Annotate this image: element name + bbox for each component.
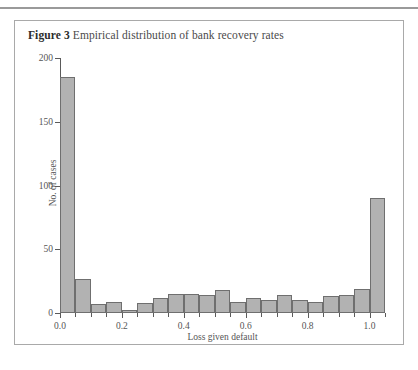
histogram-bar (184, 294, 199, 313)
histogram-bars (60, 58, 385, 313)
y-axis-tick-label: 100 (39, 181, 53, 191)
y-axis-tick (55, 122, 60, 123)
histogram-bar (122, 310, 137, 313)
x-axis-tick (354, 313, 355, 317)
x-axis-tick (215, 313, 216, 317)
x-axis-tick (308, 313, 309, 318)
histogram-bar (199, 295, 214, 313)
histogram-bar (323, 296, 338, 313)
x-axis-tick-label: 0.4 (178, 321, 190, 331)
x-axis-tick (385, 313, 386, 317)
y-axis-tick (55, 186, 60, 187)
histogram-bar (261, 300, 276, 313)
x-axis-tick (339, 313, 340, 317)
x-axis-tick (184, 313, 185, 318)
x-axis-tick (137, 313, 138, 317)
histogram-bar (75, 279, 90, 313)
histogram-bar (277, 295, 292, 313)
y-axis-tick (55, 58, 60, 59)
histogram-bar (370, 198, 385, 313)
x-axis-tick (91, 313, 92, 317)
figure-container: Figure 3 Empirical distribution of bank … (14, 20, 404, 345)
y-axis-tick-label: 200 (39, 53, 53, 63)
x-axis-tick (370, 313, 371, 318)
histogram-bar (230, 302, 245, 313)
y-axis-tick (55, 249, 60, 250)
x-axis-tick (323, 313, 324, 317)
x-axis-tick (122, 313, 123, 318)
plot-area: 050100150200 0.00.20.40.60.81.0 (60, 58, 385, 313)
x-axis-tick (277, 313, 278, 317)
x-axis-tick (292, 313, 293, 317)
x-axis-tick (261, 313, 262, 317)
x-axis-label: Loss given default (60, 332, 385, 342)
x-axis-tick (230, 313, 231, 317)
histogram-bar (106, 302, 121, 313)
figure-title: Empirical distribution of bank recovery … (73, 29, 284, 41)
page-top-rule (0, 7, 418, 9)
x-axis-tick (168, 313, 169, 317)
x-axis-tick (153, 313, 154, 317)
histogram-bar (60, 77, 75, 313)
histogram-bar (137, 303, 152, 313)
x-axis-tick (199, 313, 200, 317)
x-axis-tick-label: 0.6 (240, 321, 252, 331)
x-axis-tick (246, 313, 247, 318)
histogram-bar (308, 302, 323, 313)
y-axis-tick-label: 0 (48, 308, 53, 318)
histogram-bar (91, 304, 106, 313)
histogram-bar (215, 290, 230, 313)
histogram-bar (339, 295, 354, 313)
x-axis-tick-label: 0.2 (116, 321, 128, 331)
x-axis-tick-label: 0.0 (54, 321, 66, 331)
figure-caption: Figure 3 Empirical distribution of bank … (28, 29, 284, 41)
y-axis-tick-label: 50 (44, 244, 54, 254)
figure-label: Figure 3 (28, 29, 70, 41)
histogram-bar (168, 294, 183, 313)
x-axis-tick-label: 0.8 (302, 321, 314, 331)
x-axis-tick-label: 1.0 (364, 321, 376, 331)
x-axis-tick (60, 313, 61, 318)
histogram-bar (354, 289, 369, 313)
histogram-bar (153, 298, 168, 313)
x-axis-tick (106, 313, 107, 317)
histogram-bar (292, 300, 307, 313)
histogram-bar (246, 298, 261, 313)
x-axis-tick (75, 313, 76, 317)
y-axis-tick-label: 150 (39, 117, 53, 127)
